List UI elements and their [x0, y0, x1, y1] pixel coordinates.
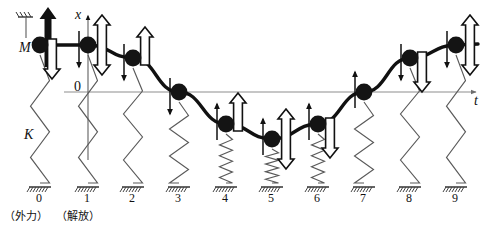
mass-label-M: M [19, 41, 31, 55]
filled-circle-icon [402, 50, 419, 67]
zigzag-spring-icon [170, 102, 189, 183]
filled-circle-icon [171, 84, 188, 101]
filled-circle-icon [310, 116, 327, 133]
tick-label-0: 0 [36, 192, 42, 204]
filled-circle-icon [32, 37, 49, 54]
tick-label-5: 5 [268, 192, 274, 204]
tick-label-3: 3 [175, 192, 181, 204]
filled-circle-icon [125, 50, 142, 67]
figure-canvas: x t 0 M K 0123456789 （外力） （解放） [0, 0, 495, 235]
tick-label-6: 6 [314, 192, 320, 204]
filled-circle-icon [80, 37, 97, 54]
filled-circle-icon [264, 131, 281, 148]
tick-label-7: 7 [360, 192, 366, 204]
hatched-ceiling-icon [16, 12, 33, 38]
annotation-release: （解放） [56, 211, 100, 222]
zigzag-spring-icon [124, 68, 143, 183]
tick-label-2: 2 [129, 192, 135, 204]
filled-circle-icon [218, 116, 235, 133]
zigzag-spring-icon [447, 55, 466, 183]
tick-label-9: 9 [452, 192, 458, 204]
spring-label-K: K [24, 128, 33, 142]
zigzag-spring-icon [355, 102, 374, 183]
zigzag-spring-icon [266, 149, 279, 183]
tick-label-1: 1 [84, 192, 90, 204]
zigzag-spring-icon [220, 134, 233, 183]
tick-label-8: 8 [406, 192, 412, 204]
arrow-group [40, 7, 479, 169]
zigzag-spring-icon [31, 55, 50, 183]
filled-circle-icon [356, 84, 373, 101]
zigzag-spring-icon [312, 134, 325, 183]
tick-label-4: 4 [222, 192, 228, 204]
origin-label: 0 [74, 80, 81, 94]
axis-label-x: x [75, 8, 81, 22]
annotation-external-force: （外力） [4, 211, 48, 222]
axis-label-t: t [474, 94, 478, 108]
filled-circle-icon [448, 37, 465, 54]
diagram-svg [0, 0, 495, 235]
